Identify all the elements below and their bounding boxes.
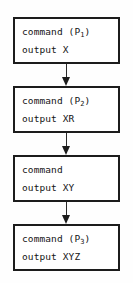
process-box-2[interactable]: command (P2) output XR — [13, 86, 120, 133]
process-box-2-output-line: output XR — [22, 111, 118, 126]
process-box-1-command-label: command — [22, 26, 63, 37]
flowchart-node-column: command (P1) output X command (P2) outpu… — [0, 0, 133, 283]
process-box-1-command-line: command (P1) — [22, 24, 118, 43]
process-box-4-output-label: output — [22, 251, 57, 262]
process-box-4-paren-open: (P — [63, 233, 80, 244]
arrow-connector-1-to-2 — [61, 64, 72, 86]
process-box-3-output-value: XY — [63, 182, 75, 193]
process-box-4-paren-close: ) — [84, 233, 90, 244]
process-box-2-output-label: output — [22, 113, 57, 124]
process-box-1-paren-open: (P — [63, 26, 80, 37]
flowchart-diagram: command (P1) output X command (P2) outpu… — [0, 0, 133, 283]
process-box-4-output-line: output XYZ — [22, 249, 118, 264]
process-box-1-output-label: output — [22, 44, 57, 55]
process-box-3-command-label: command — [22, 164, 63, 175]
process-box-3[interactable]: command output XY — [13, 155, 120, 202]
arrow-head-icon — [62, 77, 70, 86]
process-box-2-command-label: command — [22, 95, 63, 106]
process-box-2-command-line: command (P2) — [22, 93, 118, 112]
flow-step-2: command (P2) output XR — [0, 86, 133, 155]
process-box-4-command-line: command (P3) — [22, 231, 118, 250]
process-box-1-output-line: output X — [22, 42, 118, 57]
process-box-1-paren-close: ) — [84, 26, 90, 37]
arrow-head-icon — [62, 146, 70, 155]
flow-step-3: command output XY — [0, 155, 133, 224]
process-box-3-output-line: output XY — [22, 180, 118, 195]
process-box-2-output-value: XR — [63, 113, 75, 124]
flow-step-1: command (P1) output X — [0, 17, 133, 86]
process-box-2-paren-open: (P — [63, 95, 80, 106]
process-box-2-paren-close: ) — [84, 95, 90, 106]
arrow-connector-2-to-3 — [61, 133, 72, 155]
process-box-4-output-value: XYZ — [63, 251, 80, 262]
arrow-connector-3-to-4 — [61, 202, 72, 224]
process-box-4-command-label: command — [22, 233, 63, 244]
process-box-3-command-line: command — [22, 162, 118, 181]
flow-step-4: command (P3) output XYZ — [0, 224, 133, 271]
top-spacer — [66, 0, 67, 17]
arrow-head-icon — [62, 215, 70, 224]
process-box-3-output-label: output — [22, 182, 57, 193]
process-box-1-output-value: X — [63, 44, 69, 55]
process-box-1[interactable]: command (P1) output X — [13, 17, 120, 64]
process-box-4[interactable]: command (P3) output XYZ — [13, 224, 120, 271]
